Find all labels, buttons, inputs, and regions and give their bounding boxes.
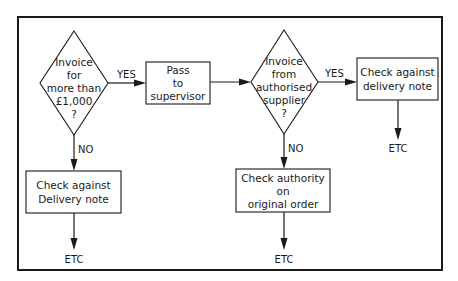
decision2-line-3: authorised [256,81,312,93]
check-right-line-2: delivery note [363,80,432,92]
etc-left: ETC [65,254,84,265]
etc-right: ETC [389,143,408,154]
d2-no-label: NO [288,143,303,154]
check-authority-line-2: on [276,185,289,197]
arrowhead-icon [71,238,78,250]
arrowhead-icon [134,80,146,87]
arrowhead-icon [281,157,288,169]
check-delivery-note-right-box: Check against delivery note [357,58,438,100]
pass-line-2: to [173,77,184,89]
arrowhead-icon [71,159,78,171]
decision2-line-5: ? [281,107,287,119]
decision2-line-2: from [272,68,296,80]
arrowhead-icon [281,238,288,250]
decision-invoice-over-1000: Invoice for more than £1,000 ? [40,31,108,135]
check-authority-box: Check authority on original order [236,169,330,212]
pass-line-3: supervisor [151,90,207,102]
arrowhead-icon [239,79,251,86]
decision1-line-4: £1,000 [56,95,93,107]
check-authority-line-3: original order [248,198,319,210]
check-left-line-2: Delivery note [38,193,109,205]
decision1-line-1: Invoice [55,56,93,68]
check-left-line-1: Check against [36,179,110,191]
d1-no-label: NO [78,144,93,155]
arrowhead-icon [395,128,402,140]
etc-middle: ETC [275,254,294,265]
d1-yes-label: YES [116,69,136,80]
pass-to-supervisor-box: Pass to supervisor [146,62,210,104]
pass-line-1: Pass [166,64,189,76]
d2-yes-label: YES [324,68,344,79]
check-authority-line-1: Check authority [241,172,325,184]
check-delivery-note-left-box: Check against Delivery note [26,171,121,213]
decision1-line-2: for [67,69,82,81]
check-right-line-1: Check against [360,66,434,78]
decision2-line-4: supplier [263,94,306,106]
decision-authorised-supplier: Invoice from authorised supplier ? [251,30,318,134]
decision1-line-3: more than [47,82,101,94]
arrowhead-icon [345,79,357,86]
decision1-line-5: ? [71,108,77,120]
flowchart: Invoice for more than £1,000 ? YES Pass … [0,0,458,281]
decision2-line-1: Invoice [265,55,303,67]
